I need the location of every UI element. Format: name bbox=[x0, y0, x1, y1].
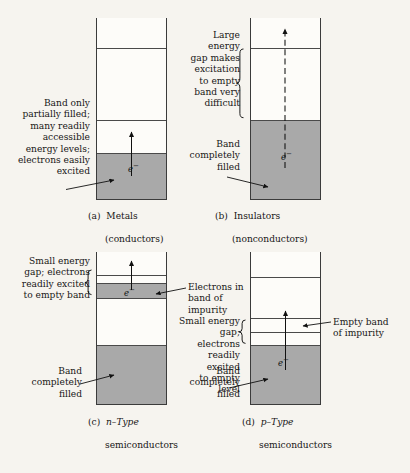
leader-line-insulators bbox=[227, 177, 268, 187]
leader-line-filled-p-type bbox=[229, 379, 268, 388]
energy-gap-brace-insulators bbox=[237, 49, 244, 118]
figure-canvas: e− Band only partially filled; many read… bbox=[0, 0, 410, 473]
energy-gap-brace-p-type bbox=[239, 320, 246, 343]
annotation-overlay bbox=[0, 0, 410, 473]
leader-line-metals bbox=[66, 180, 114, 190]
leader-line-impurity-n-type bbox=[156, 288, 186, 294]
energy-gap-brace-n-type bbox=[85, 270, 92, 295]
leader-line-impurity-p-type bbox=[303, 322, 331, 326]
leader-line-filled-n-type bbox=[80, 375, 114, 384]
